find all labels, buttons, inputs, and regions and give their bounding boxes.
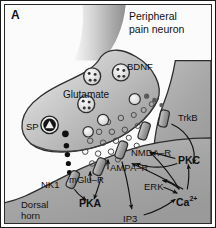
- label-pka: PKA: [79, 198, 101, 209]
- glutamate-vesicle-1: [84, 68, 101, 85]
- label-bdnf: BDNF: [127, 62, 153, 72]
- label-nmda-r: NMDA–R: [131, 148, 171, 158]
- label-ip3: IP3: [123, 214, 137, 224]
- figure-panel: A Peripheral pain neuron BDNF Glutamate …: [0, 0, 216, 228]
- figure-title: Peripheral pain neuron: [129, 10, 184, 36]
- label-pkc: PKC: [178, 155, 200, 166]
- calcium-symbol: Ca: [176, 196, 189, 208]
- label-nk1: NK1: [41, 180, 59, 190]
- label-erk: ERK: [144, 182, 164, 192]
- sp-vesicle: [41, 116, 58, 133]
- label-ampa-r: AMPA–R: [110, 163, 148, 173]
- panel-letter: A: [11, 9, 20, 22]
- label-substance-p: SP: [26, 122, 39, 132]
- label-trkb: TrkB: [178, 113, 198, 123]
- label-mglu-r: mGlu–R: [69, 175, 104, 185]
- figure-inner-frame: A Peripheral pain neuron BDNF Glutamate …: [4, 4, 212, 224]
- label-glutamate: Glutamate: [63, 90, 109, 101]
- label-dorsal-horn-neuron: Dorsal horn neuron: [21, 199, 51, 224]
- label-calcium: Ca2+: [176, 195, 197, 208]
- calcium-charge: 2+: [189, 195, 197, 202]
